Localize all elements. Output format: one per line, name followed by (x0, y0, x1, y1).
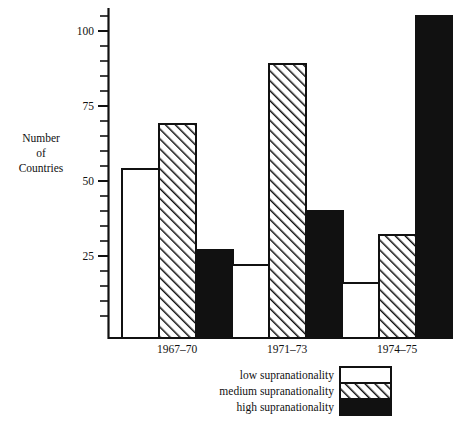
bar-low-1971-73 (232, 265, 269, 338)
y-axis-title-line-3: Countries (19, 162, 64, 174)
legend-swatch-high (340, 399, 391, 415)
bar-low-1974-75 (342, 283, 379, 338)
y-tick-label-25: 25 (83, 250, 95, 262)
chart-background (0, 0, 453, 423)
y-axis-title-line-2: of (36, 147, 46, 159)
bar-medium-1974-75 (379, 235, 416, 338)
bar-low-1967-70 (122, 169, 159, 338)
chart-canvas: 100 75 50 25 Number of Countries 1967–70… (0, 0, 453, 423)
legend-swatch-medium (340, 383, 391, 399)
legend-label-low: low supranationality (240, 369, 334, 382)
legend: low supranationality medium supranationa… (219, 367, 391, 415)
legend-label-medium: medium supranationality (219, 385, 334, 398)
y-axis-title-line-1: Number (22, 132, 60, 144)
bar-high-1967-70 (196, 250, 233, 338)
x-category-label-2: 1971–73 (267, 343, 308, 355)
y-tick-label-75: 75 (83, 100, 95, 112)
y-tick-label-50: 50 (83, 175, 95, 187)
bar-high-1974-75 (416, 16, 453, 338)
bar-medium-1971-73 (269, 64, 306, 338)
bar-high-1971-73 (306, 211, 343, 338)
x-category-label-1: 1967–70 (157, 343, 198, 355)
legend-label-high: high supranationality (237, 401, 335, 414)
x-category-label-3: 1974–75 (377, 343, 418, 355)
y-tick-label-100: 100 (77, 25, 95, 37)
bar-medium-1967-70 (159, 124, 196, 338)
legend-swatch-low (340, 367, 391, 383)
bar-chart: 100 75 50 25 Number of Countries 1967–70… (0, 0, 453, 423)
